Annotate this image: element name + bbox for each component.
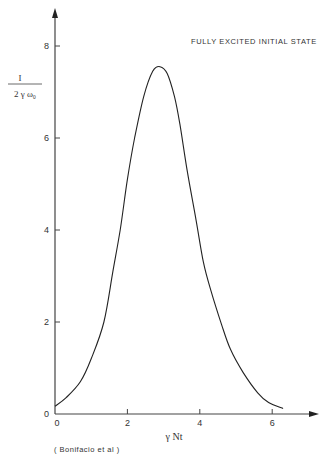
y-tick-label: 6: [44, 133, 49, 143]
x-ticks: 0246: [54, 409, 274, 428]
y-label-numerator: I: [19, 73, 22, 83]
y-tick-label: 4: [44, 225, 49, 235]
y-axis-arrow-icon: [52, 8, 58, 18]
chart-title: FULLY EXCITED INITIAL STATE: [191, 37, 317, 46]
x-tick-label: 4: [197, 418, 202, 428]
y-label-denominator: 2 γ ω₀: [14, 89, 36, 99]
x-tick-label: 2: [125, 418, 130, 428]
y-tick-label: 0: [44, 409, 49, 419]
y-tick-label: 2: [44, 317, 49, 327]
x-tick-label: 6: [270, 418, 275, 428]
data-curve: [55, 67, 283, 409]
y-tick-label: 8: [44, 41, 49, 51]
chart-canvas: 02468 0246 FULLY EXCITED INITIAL STATE I…: [0, 0, 324, 457]
y-ticks: 02468: [44, 41, 60, 419]
y-axis-label: I 2 γ ω₀: [8, 73, 42, 99]
x-axis-label: γ Nt: [165, 431, 183, 442]
x-axis-arrow-icon: [309, 411, 319, 417]
x-tick-label: 0: [54, 418, 59, 428]
citation-annotation: ( Bonifacio et al ): [54, 445, 120, 454]
